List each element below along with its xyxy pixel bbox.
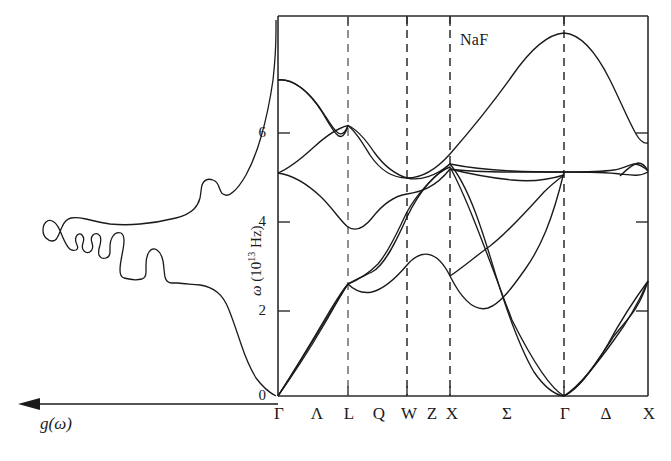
branch-LA [278, 167, 648, 396]
x-tick-label-lambda: Λ [306, 404, 328, 424]
x-tick-label-Q: Q [368, 404, 390, 424]
dos-axis-label: g(ω) [40, 414, 72, 434]
figure-canvas [0, 0, 671, 461]
branch-sigma-lower [450, 175, 564, 276]
density-of-states-curve [43, 20, 276, 396]
x-tick-label-Z: Z [421, 404, 443, 424]
sample-label: NaF [460, 31, 488, 49]
plot-frame [278, 16, 648, 396]
branch-TA2 [278, 172, 564, 396]
dos-direction-arrow [18, 398, 278, 410]
y-tick-label-4: 4 [250, 213, 266, 230]
branch-LO-gamma-to-L [278, 80, 348, 134]
phonon-dispersion-figure: ω (1013 Hz) 6 4 2 0 Γ Λ L Q W Z X Σ Γ Δ … [0, 0, 671, 461]
y-tick-label-0: 0 [250, 387, 266, 404]
branch-TA1 [278, 164, 648, 396]
x-tick-label-delta: Δ [595, 404, 617, 424]
branch-LO [278, 33, 648, 178]
x-tick-label-gamma-1: Γ [268, 404, 290, 424]
x-tick-label-gamma-2: Γ [554, 404, 576, 424]
x-tick-label-L: L [338, 404, 360, 424]
branch-TO1 [278, 164, 648, 229]
x-tick-label-sigma: Σ [496, 404, 518, 424]
y-tick-label-6: 6 [250, 124, 266, 141]
x-tick-label-W: W [398, 404, 420, 424]
x-tick-label-X-1: X [441, 404, 463, 424]
y-axis-ticks [278, 133, 648, 311]
y-axis-title: ω (1013 Hz) [246, 126, 265, 296]
y-tick-label-2: 2 [250, 302, 266, 319]
phonon-branch-curves [278, 33, 648, 396]
x-tick-label-X-2: X [638, 404, 660, 424]
